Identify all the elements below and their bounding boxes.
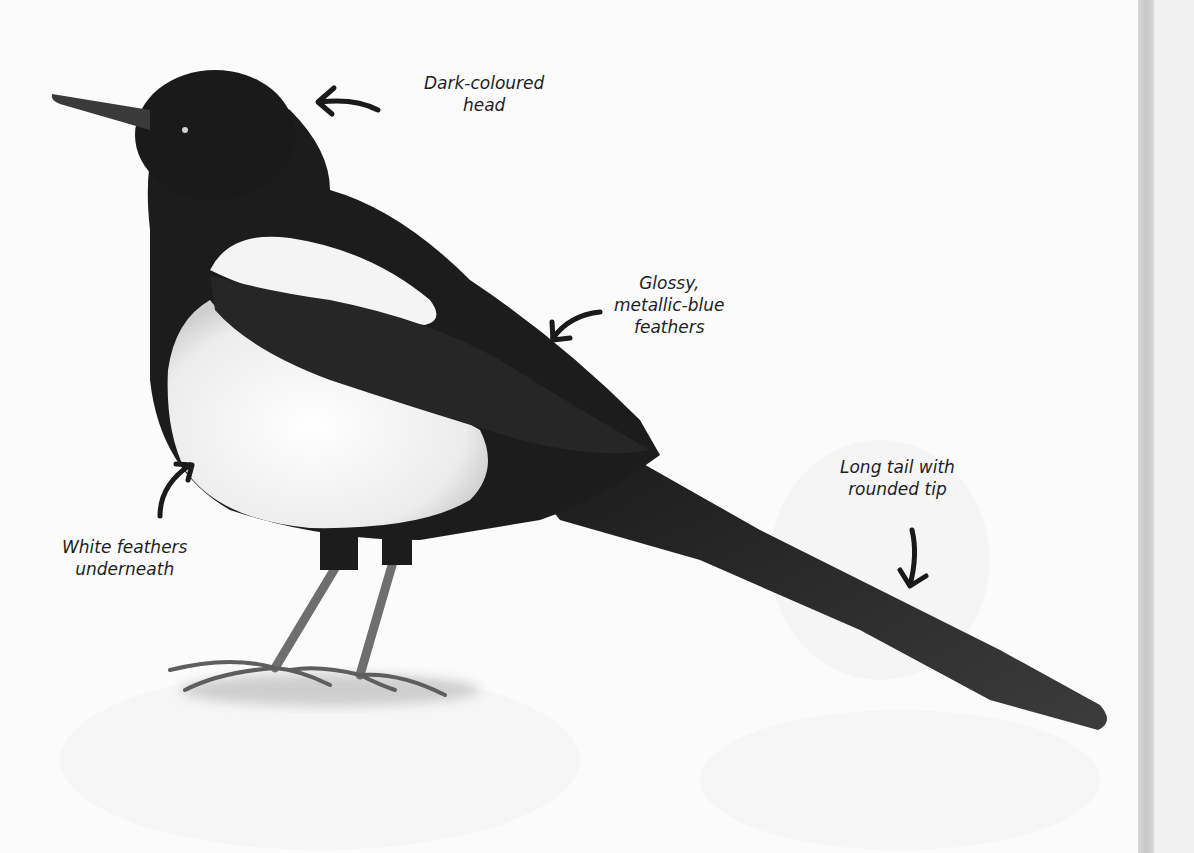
arrow-wing-icon (552, 312, 600, 340)
label-belly: White feathers underneath (62, 536, 187, 580)
label-line: metallic-blue (614, 294, 725, 316)
label-line: rounded tip (840, 478, 955, 500)
label-head: Dark-coloured head (424, 72, 544, 116)
label-line: Long tail with (840, 456, 955, 478)
page-spine (1138, 0, 1154, 853)
arrow-tail-icon (900, 530, 926, 586)
label-tail: Long tail with rounded tip (840, 456, 955, 500)
label-line: Glossy, (614, 272, 725, 294)
arrow-head-icon (318, 88, 378, 114)
page-margin (1154, 0, 1194, 853)
label-line: underneath (62, 558, 187, 580)
label-wing: Glossy, metallic-blue feathers (614, 272, 725, 338)
label-line: Dark-coloured (424, 72, 544, 94)
arrow-belly-icon (160, 464, 192, 516)
annotation-arrows (0, 0, 1138, 853)
label-line: feathers (614, 316, 725, 338)
label-line: White feathers (62, 536, 187, 558)
label-line: head (424, 94, 544, 116)
